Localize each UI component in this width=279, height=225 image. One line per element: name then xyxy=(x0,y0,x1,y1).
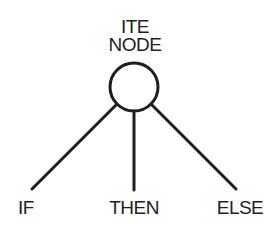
ite-node-diagram: ITE NODE IF THEN ELSE xyxy=(0,0,279,225)
child-label-if: IF xyxy=(18,197,34,218)
child-label-then: THEN xyxy=(109,197,159,218)
root-label-line2: NODE xyxy=(109,34,162,55)
edge-if xyxy=(32,104,117,189)
child-label-else: ELSE xyxy=(217,197,264,218)
edge-else xyxy=(151,104,236,189)
